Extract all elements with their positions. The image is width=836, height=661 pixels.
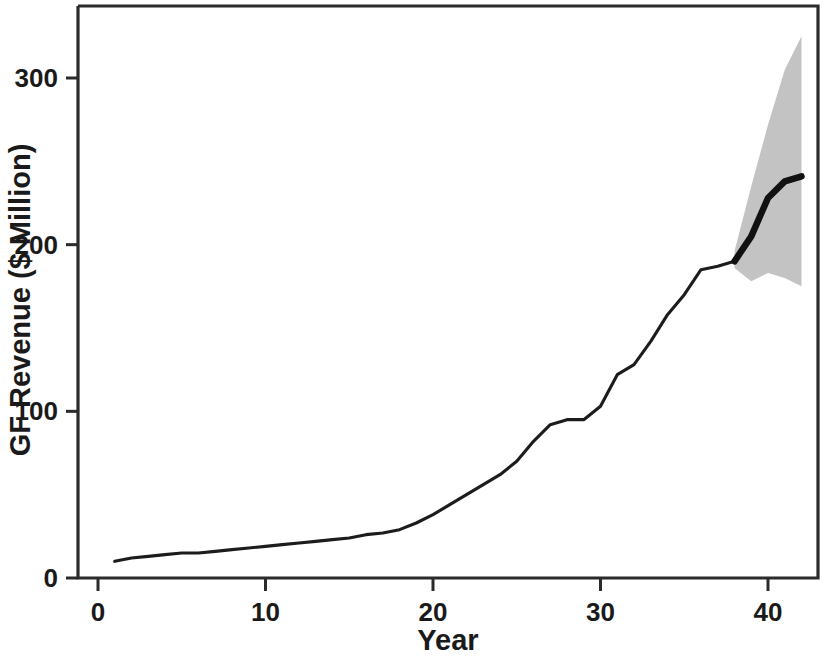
y-axis-title: GF Revenue ($ Million) xyxy=(4,144,36,457)
x-tick-label: 0 xyxy=(91,597,105,627)
chart-svg: 0100200300 010203040 Year GF Revenue ($ … xyxy=(0,0,836,661)
y-tick-label: 0 xyxy=(44,563,58,593)
x-tick-label: 40 xyxy=(754,597,783,627)
figure-background xyxy=(0,0,836,661)
y-tick-label: 300 xyxy=(15,63,58,93)
x-tick-label: 30 xyxy=(586,597,615,627)
x-tick-label: 20 xyxy=(419,597,448,627)
x-axis-title: Year xyxy=(417,624,478,656)
x-tick-label: 10 xyxy=(251,597,280,627)
gf-revenue-chart-figure: 0100200300 010203040 Year GF Revenue ($ … xyxy=(0,0,836,661)
